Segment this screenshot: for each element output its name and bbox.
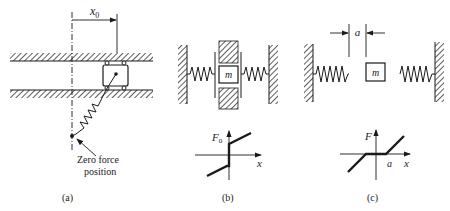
caption-a: (a) [62,192,73,204]
caption-b: (b) [222,192,234,204]
lower-wall [10,90,153,98]
graph-c-y-label: F [364,130,372,142]
force-graph-b: F0 x [195,131,262,180]
right-spring-b [241,67,269,81]
zero-force-point [70,134,74,138]
zero-force-label-line1: Zero force [77,154,119,165]
right-wall-b [269,45,278,104]
left-wall-b [178,45,187,104]
mass-label-c: m [372,67,379,78]
zero-force-label-line2: position [84,166,116,177]
panel-b: m F0 x (b) [178,41,278,204]
right-wall-c [435,42,444,102]
panel-a: x0 Zero force position (a) [10,4,153,204]
right-spring-c [400,66,435,82]
upper-wall [10,53,153,61]
mass-label-b: m [225,69,232,80]
graph-c-a-tick: a [387,158,392,169]
caption-c: (c) [367,192,378,204]
diagram-canvas: x0 Zero force position (a) m [0,0,450,211]
force-graph-c: F x a [340,130,410,180]
graph-b-x-label: x [256,157,262,169]
graph-b-y-label: F0 [211,131,223,145]
left-spring-b [187,67,215,81]
x0-label: x0 [89,4,99,20]
panel-c: a m F x a (c) [304,24,444,204]
left-spring-c [313,66,349,82]
left-wall-c [304,44,313,102]
graph-c-x-label: x [403,157,409,169]
gap-label: a [355,26,361,38]
